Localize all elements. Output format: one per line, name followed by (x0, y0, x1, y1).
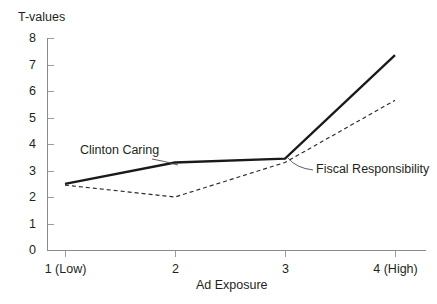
y-tick-label-6: 6 (22, 85, 36, 98)
x-tick-label-1-low: 1 (Low) (26, 263, 106, 276)
y-tick-label-4: 4 (22, 138, 36, 151)
y-tick-label-7: 7 (22, 59, 36, 72)
chart-canvas (0, 0, 437, 304)
series-label-clinton-caring: Clinton Caring (80, 144, 159, 157)
y-tick-marks (48, 39, 54, 225)
y-tick-label-2: 2 (22, 191, 36, 204)
leader-line-fiscal-responsibility (288, 158, 313, 170)
y-tick-label-0: 0 (22, 244, 36, 257)
line-chart: T-values 8 7 6 5 4 3 2 1 0 1 (Low) 2 3 4… (0, 0, 437, 304)
series-label-fiscal-responsibility: Fiscal Responsibility (316, 163, 429, 176)
x-tick-label-2: 2 (156, 263, 196, 276)
x-tick-label-3: 3 (266, 263, 306, 276)
y-tick-label-1: 1 (22, 218, 36, 231)
y-tick-label-3: 3 (22, 165, 36, 178)
x-tick-label-4-high: 4 (High) (356, 263, 436, 276)
x-tick-marks (66, 251, 396, 257)
y-tick-label-5: 5 (22, 112, 36, 125)
y-tick-label-8: 8 (22, 32, 36, 45)
y-axis-title: T-values (18, 11, 65, 24)
x-axis-title: Ad Exposure (196, 279, 268, 292)
